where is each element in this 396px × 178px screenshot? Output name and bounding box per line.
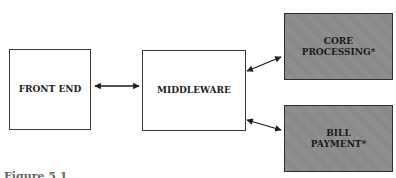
arrow-middleware-bill [247, 120, 281, 130]
connector-arrows [0, 0, 396, 178]
arrow-middleware-core [247, 57, 281, 71]
figure-caption: Figure 5.1 ... [4, 170, 83, 178]
